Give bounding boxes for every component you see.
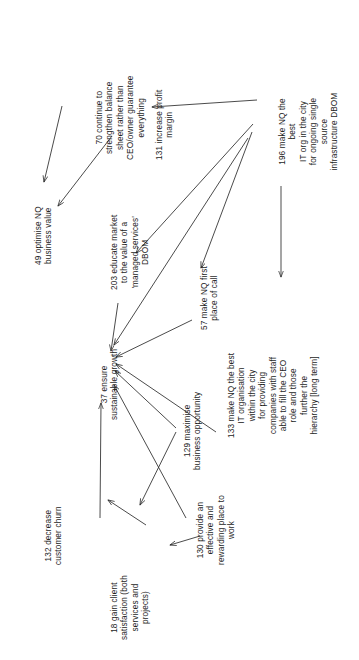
node-203[interactable]: 203 educate market to the value of a 'ma… [110,215,152,290]
node-label-18: 18 gain client satisfaction (both servic… [110,575,152,640]
node-132[interactable]: 132 decrease customer churn [44,506,65,565]
node-label-132: 132 decrease customer churn [44,506,65,565]
edge-196-to-203 [136,124,253,253]
edge-70-to-49 [44,106,62,182]
node-57[interactable]: 57 make NQ first place of call [200,266,221,330]
node-label-49: 49 optimise NQ business value [34,206,55,265]
node-label-130: 130 provide an effective and rewarding p… [196,495,238,565]
edge-130-to-37 [114,385,186,518]
node-196[interactable]: 196 make NQ the best IT org in the city … [278,91,340,172]
node-131[interactable]: 131 increase profit margin [155,90,176,160]
node-label-129: 129 maximise business opportunity [183,392,204,470]
node-133[interactable]: 133 make NQ the best IT organisation wit… [227,353,321,438]
node-18[interactable]: 18 gain client satisfaction (both servic… [110,575,152,640]
node-label-131: 131 increase profit margin [155,90,176,160]
node-130[interactable]: 130 provide an effective and rewarding p… [196,495,238,565]
node-label-196: 196 make NQ the best IT org in the city … [278,91,340,172]
node-label-37: 37 ensure sustainable growth [100,349,121,420]
edge-196-to-57 [201,132,252,268]
edge-18-to-132 [108,500,146,525]
edge-group [44,100,281,545]
node-129[interactable]: 129 maximise business opportunity [183,392,204,470]
node-label-203: 203 educate market to the value of a 'ma… [110,215,152,290]
node-49[interactable]: 49 optimise NQ business value [34,206,55,265]
node-label-133: 133 make NQ the best IT organisation wit… [227,353,321,438]
edge-203-to-37 [111,303,118,351]
diagram-canvas: 70 continue to strengthen balance sheet … [0,0,359,660]
edge-129-to-37 [115,371,176,428]
edge-129-to-18 [140,432,176,505]
edge-132-to-37 [100,403,101,518]
node-37[interactable]: 37 ensure sustainable growth [100,349,121,420]
node-70[interactable]: 70 continue to strengthen balance sheet … [95,75,147,160]
edge-57-to-37 [116,320,192,357]
node-label-57: 57 make NQ first place of call [200,266,221,330]
node-label-70: 70 continue to strengthen balance sheet … [95,75,147,160]
